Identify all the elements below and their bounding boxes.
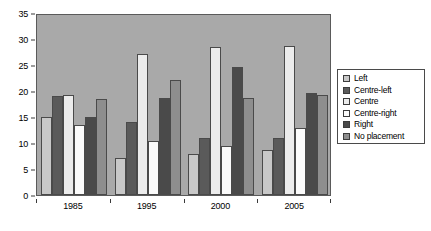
- bar: [41, 117, 52, 195]
- legend-item: Centre: [343, 96, 424, 108]
- x-axis-tick-mark: [330, 199, 331, 203]
- x-axis-tick-label: 2000: [211, 201, 230, 211]
- bar-chart: 05101520253035 1985199520002005 LeftCent…: [0, 0, 431, 231]
- legend-item-label: No placement: [354, 132, 404, 141]
- y-axis-tick-label: 15: [18, 113, 28, 123]
- x-axis-tick-label: 1995: [137, 201, 156, 211]
- x-axis-tick-mark: [184, 199, 185, 203]
- bar: [115, 158, 126, 195]
- y-axis-tick-label: 10: [18, 139, 28, 149]
- bar: [74, 125, 85, 195]
- x-axis-tick-mark: [257, 199, 258, 203]
- bar: [273, 138, 284, 195]
- legend-swatch-icon: [343, 110, 350, 117]
- y-axis-tick-label: 30: [18, 35, 28, 45]
- bar: [210, 47, 221, 195]
- bar: [170, 80, 181, 195]
- bar: [232, 67, 243, 195]
- legend-swatch-icon: [343, 75, 350, 82]
- legend-item-label: Right: [354, 120, 373, 129]
- y-axis-tick-mark: [31, 170, 35, 171]
- plot-area: [36, 14, 331, 196]
- y-axis-tick-label: 25: [18, 61, 28, 71]
- legend-swatch-icon: [343, 121, 350, 128]
- bar: [63, 95, 74, 195]
- bar: [284, 46, 295, 195]
- legend-swatch-icon: [343, 98, 350, 105]
- x-axis-tick-mark: [110, 199, 111, 203]
- legend-item: Centre-right: [343, 108, 424, 120]
- y-axis-tick-mark: [31, 144, 35, 145]
- y-axis-tick-mark: [31, 40, 35, 41]
- y-axis-tick-mark: [31, 14, 35, 15]
- x-axis-tick-mark: [36, 199, 37, 203]
- bar: [148, 141, 159, 195]
- legend-item: Centre-left: [343, 85, 424, 97]
- x-axis-tick-label: 2005: [285, 201, 304, 211]
- bar: [126, 122, 137, 195]
- y-axis-tick-label: 0: [23, 191, 28, 201]
- bar: [199, 138, 210, 195]
- legend-item-label: Centre-left: [354, 86, 391, 95]
- bar: [221, 146, 232, 195]
- bar: [306, 93, 317, 195]
- bar: [243, 98, 254, 195]
- bar: [262, 150, 273, 195]
- legend-item-label: Centre-right: [354, 109, 396, 118]
- bar: [188, 154, 199, 195]
- legend-swatch-icon: [343, 133, 350, 140]
- legend-item-label: Centre: [354, 97, 378, 106]
- legend-item-label: Left: [354, 74, 367, 83]
- legend-item: Right: [343, 119, 424, 131]
- y-axis-tick-label: 5: [23, 165, 28, 175]
- bar: [159, 98, 170, 195]
- bar: [52, 96, 63, 195]
- x-axis-tick-label: 1985: [63, 201, 82, 211]
- y-axis: 05101520253035: [0, 0, 36, 231]
- legend-swatch-icon: [343, 87, 350, 94]
- y-axis-tick-mark: [31, 92, 35, 93]
- bar: [85, 117, 96, 195]
- y-axis-tick-mark: [31, 66, 35, 67]
- bar: [295, 128, 306, 195]
- bar: [137, 54, 148, 195]
- legend-item: No placement: [343, 131, 424, 143]
- x-axis: 1985199520002005: [36, 199, 331, 219]
- chart-legend: LeftCentre-leftCentreCentre-rightRightNo…: [337, 69, 425, 144]
- bar: [96, 99, 107, 195]
- y-axis-tick-label: 20: [18, 87, 28, 97]
- y-axis-tick-mark: [31, 118, 35, 119]
- legend-item: Left: [343, 73, 424, 85]
- y-axis-tick-label: 35: [18, 9, 28, 19]
- bar: [317, 95, 328, 195]
- y-axis-tick-mark: [31, 196, 35, 197]
